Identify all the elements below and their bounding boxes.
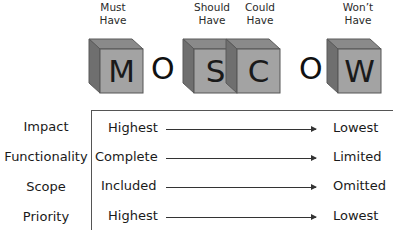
row-label-impact: Impact (0, 119, 92, 134)
cube-letter-m: M (100, 49, 143, 93)
row-label-functionality: Functionality (0, 149, 92, 164)
cube-letter-c: C (237, 49, 280, 93)
row-from-scope: Included (101, 178, 157, 193)
row-to-impact: Lowest (333, 120, 378, 135)
caption-line: Have (83, 14, 143, 27)
arrow-icon (166, 129, 316, 130)
caption-line: Must (83, 1, 143, 14)
arrow-icon (166, 187, 316, 188)
row-to-scope: Omitted (333, 178, 386, 193)
caption-must-have: Must Have (83, 1, 143, 26)
letter-o-2: O (299, 51, 323, 86)
caption-line: Have (328, 14, 388, 27)
row-label-priority: Priority (0, 209, 92, 224)
row-to-priority: Lowest (333, 208, 378, 223)
row-from-priority: Highest (108, 208, 158, 223)
caption-line: Could (230, 1, 290, 14)
caption-line: Have (230, 14, 290, 27)
caption-line: Won’t (328, 1, 388, 14)
row-to-functionality: Limited (333, 149, 381, 164)
row-label-scope: Scope (0, 179, 92, 194)
table-top-border (91, 110, 393, 111)
arrow-icon (166, 158, 316, 159)
row-from-functionality: Complete (95, 149, 158, 164)
row-from-impact: Highest (108, 120, 158, 135)
cube-letter-w: W (338, 49, 381, 93)
caption-wont-have: Won’t Have (328, 1, 388, 26)
arrow-icon (166, 217, 316, 218)
letter-o-1: O (151, 51, 175, 86)
caption-could-have: Could Have (230, 1, 290, 26)
